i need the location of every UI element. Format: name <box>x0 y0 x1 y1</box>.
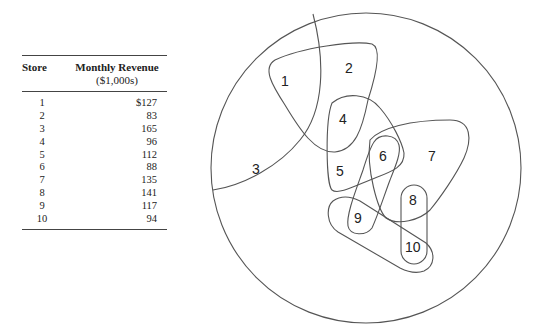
region-label-8: 8 <box>409 192 417 208</box>
region-label-6: 6 <box>379 148 387 164</box>
region-3-boundary <box>213 14 321 190</box>
region-6-7-shape <box>369 120 469 222</box>
region-label-5: 5 <box>336 163 344 179</box>
region-label-1: 1 <box>281 73 289 89</box>
region-label-3: 3 <box>252 161 260 177</box>
region-label-4: 4 <box>339 111 347 127</box>
region-label-10: 10 <box>405 239 421 255</box>
store-region-diagram: 1 2 3 4 5 6 7 8 9 10 <box>0 0 533 334</box>
region-label-7: 7 <box>428 148 436 164</box>
region-label-2: 2 <box>345 60 353 76</box>
region-1-2-shape <box>269 43 377 152</box>
region-label-9: 9 <box>354 210 362 226</box>
